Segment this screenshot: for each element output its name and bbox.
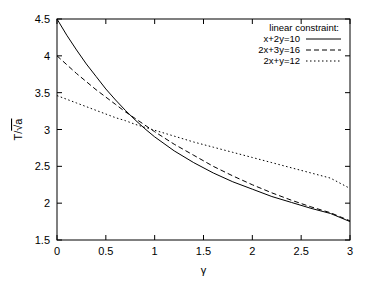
series-line-2 (57, 96, 350, 189)
x-tick-label: 2.5 (294, 245, 309, 257)
y-tick-label: 4 (44, 50, 50, 62)
series-line-0 (57, 19, 350, 222)
y-tick-label: 3 (44, 124, 50, 136)
legend-label-2: 2x+y=12 (264, 55, 300, 66)
chart-container: 00.511.522.531.522.533.544.5γT/√alinear … (0, 0, 370, 287)
y-tick-label: 3.5 (35, 87, 50, 99)
line-chart: 00.511.522.531.522.533.544.5γT/√alinear … (0, 0, 370, 287)
series-line-1 (57, 56, 350, 221)
x-tick-label: 2 (249, 245, 255, 257)
y-tick-label: 1.5 (35, 234, 50, 246)
y-tick-label: 4.5 (35, 13, 50, 25)
x-tick-label: 3 (347, 245, 353, 257)
x-tick-label: 0 (54, 245, 60, 257)
x-tick-label: 1 (152, 245, 158, 257)
y-tick-label: 2 (44, 197, 50, 209)
y-tick-label: 2.5 (35, 160, 50, 172)
x-tick-label: 1.5 (196, 245, 211, 257)
x-tick-label: 0.5 (98, 245, 113, 257)
y-axis-title: T/√a (12, 118, 24, 141)
legend-label-1: 2x+3y=16 (258, 44, 300, 55)
legend-label-0: x+2y=10 (264, 33, 300, 44)
x-axis-title: γ (201, 264, 207, 276)
legend-title: linear constraint: (269, 22, 339, 33)
